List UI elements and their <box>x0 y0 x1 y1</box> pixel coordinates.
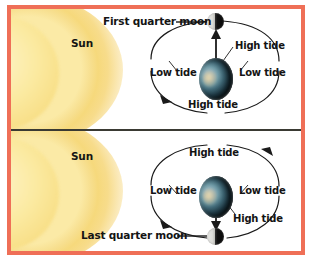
low-tide-label-right: Low tide <box>239 67 286 78</box>
tide-diagram-figure: Sun First quarter moon High tide Low tid… <box>0 0 316 268</box>
orbit-direction-arrow-bottom-left <box>160 220 172 229</box>
orbit-direction-arrow <box>160 95 172 104</box>
high-tide-label-bottom-right: High tide <box>233 213 283 224</box>
moon-last-quarter <box>207 228 224 245</box>
panel-first-quarter: Sun First quarter moon High tide Low tid… <box>11 9 301 130</box>
sun-label-top: Sun <box>71 38 93 49</box>
high-tide-label-bottom: High tide <box>188 99 238 110</box>
high-tide-label-top: High tide <box>189 147 239 158</box>
high-tide-pointer-top <box>223 47 233 61</box>
diagram-frame: Sun First quarter moon High tide Low tid… <box>7 5 305 255</box>
earth-graphic <box>199 58 233 100</box>
low-tide-label-right-b: Low tide <box>239 185 286 196</box>
tide-bulge-arrow-head <box>211 29 221 39</box>
low-tide-label-left-b: Low tide <box>150 185 197 196</box>
sun-label-bottom: Sun <box>71 151 93 162</box>
last-quarter-moon-label: Last quarter moon <box>81 230 187 241</box>
panel-last-quarter: Sun High tide Low tide Low tide High tid… <box>11 130 301 251</box>
low-tide-label-left: Low tide <box>150 67 197 78</box>
high-tide-label-top-right: High tide <box>235 40 285 51</box>
first-quarter-moon-label: First quarter moon <box>103 16 211 27</box>
panel-divider <box>11 129 301 131</box>
earth-graphic-bottom <box>199 176 233 218</box>
orbit-direction-arrow-top-right <box>261 147 273 156</box>
